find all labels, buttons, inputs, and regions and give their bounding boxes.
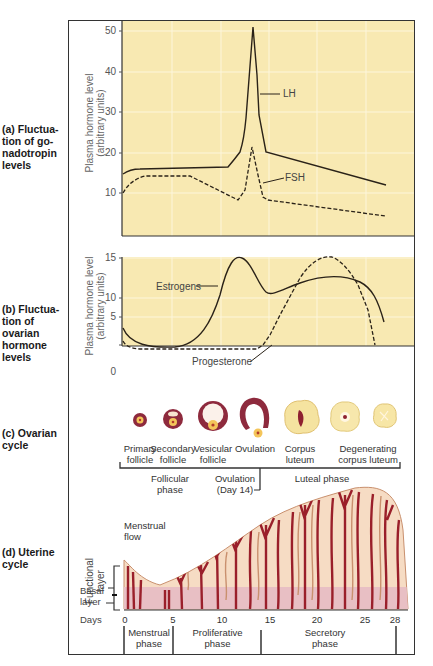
endometrium-illustration: [0, 0, 433, 666]
layer-bracket: [114, 566, 120, 610]
day-tick-15: 15: [262, 614, 278, 625]
day-tick-5: 5: [167, 614, 179, 625]
day-tick-28: 28: [387, 614, 403, 625]
proliferative-phase-label: Proliferative phase: [180, 627, 255, 649]
menstrual-phase-label: Menstrual phase: [125, 627, 173, 649]
basal-layer-label: Basal layer: [80, 585, 110, 607]
day-tick-0: 0: [119, 614, 131, 625]
day-tick-10: 10: [214, 614, 230, 625]
days-label: Days: [80, 614, 110, 625]
menstrual-flow-label: Menstrual flow: [124, 520, 174, 542]
day-tick-20: 20: [309, 614, 325, 625]
secretory-phase-label: Secretory phase: [290, 627, 360, 649]
day-tick-25: 25: [357, 614, 373, 625]
